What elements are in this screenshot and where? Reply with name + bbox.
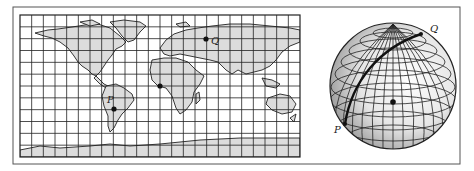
globe: P Q	[330, 23, 456, 151]
globe-point-q	[419, 32, 423, 36]
map-point-p	[111, 106, 116, 111]
map-point-q	[203, 36, 208, 41]
globe-label-q: Q	[430, 23, 438, 34]
map-label-q: Q	[211, 35, 219, 46]
globe-label-p: P	[333, 124, 341, 135]
globe-center-dot	[390, 99, 396, 105]
map-label-p: P	[106, 94, 114, 105]
map-point-origin	[157, 83, 162, 88]
figure: P Q	[0, 0, 474, 171]
globe-point-p	[343, 122, 347, 126]
